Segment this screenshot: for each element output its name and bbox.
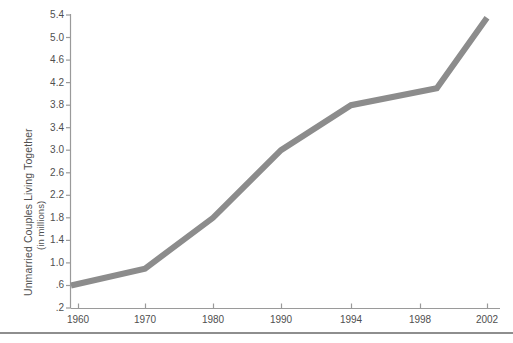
footer-rule xyxy=(0,332,513,334)
y-axis-ticks xyxy=(66,15,71,308)
x-axis-ticks xyxy=(79,304,488,309)
data-series-line xyxy=(71,18,487,286)
plot-area xyxy=(0,0,513,343)
chart-figure: Unmarried Couples Living Together (in mi… xyxy=(0,0,513,343)
